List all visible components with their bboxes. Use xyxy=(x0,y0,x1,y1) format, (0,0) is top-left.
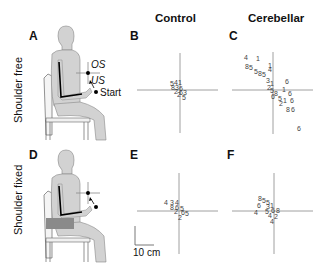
svg-text:6: 6 xyxy=(290,97,294,104)
svg-text:4: 4 xyxy=(164,199,168,206)
scale-bar-label: 10 cm xyxy=(133,247,160,258)
scatter-b-points: 541 836 263 52 xyxy=(170,79,187,101)
svg-text:6: 6 xyxy=(297,125,301,132)
svg-text:6: 6 xyxy=(291,106,295,113)
scale-bar xyxy=(135,226,154,245)
svg-text:1: 1 xyxy=(282,86,286,93)
svg-text:2: 2 xyxy=(178,214,182,221)
svg-text:4: 4 xyxy=(270,218,274,225)
svg-text:6: 6 xyxy=(271,93,275,100)
svg-text:5: 5 xyxy=(249,64,253,71)
svg-text:6: 6 xyxy=(288,90,292,97)
svg-text:4: 4 xyxy=(254,209,258,216)
svg-text:5: 5 xyxy=(185,210,189,217)
svg-text:1: 1 xyxy=(256,55,260,62)
svg-text:4: 4 xyxy=(244,54,248,61)
annotation-os: OS xyxy=(91,59,105,70)
annotation-us: US xyxy=(91,75,105,86)
figure-graphics: 541 836 263 52 41 85 585 14 312 586 61 6… xyxy=(0,0,327,272)
annotation-start: Start xyxy=(100,87,121,98)
svg-text:5: 5 xyxy=(182,94,186,101)
scatter-c-points: 41 85 585 14 312 586 61 651 26 86 6 xyxy=(244,54,301,132)
scatter-e-points: 434 865 265 2 xyxy=(164,199,189,221)
svg-text:2: 2 xyxy=(177,91,181,98)
scatter-f-points: 855 631 456 842 4 xyxy=(254,195,280,225)
svg-text:6: 6 xyxy=(285,78,289,85)
svg-text:6: 6 xyxy=(257,202,261,209)
svg-text:8: 8 xyxy=(286,106,290,113)
shoulder-restraint xyxy=(46,218,74,229)
svg-text:4: 4 xyxy=(268,66,272,73)
seated-figure-shoulder-fixed xyxy=(44,150,106,262)
svg-text:2: 2 xyxy=(279,100,283,107)
svg-text:2: 2 xyxy=(274,213,278,220)
svg-text:1: 1 xyxy=(283,97,287,104)
